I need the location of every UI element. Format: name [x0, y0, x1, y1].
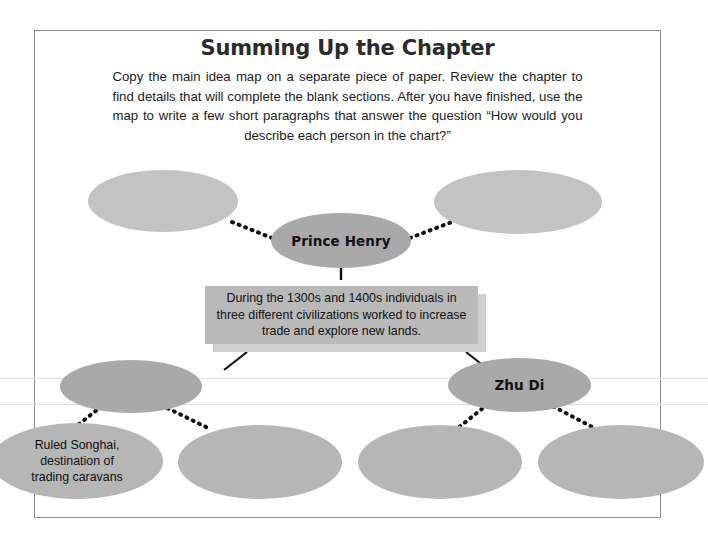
- idea-node-prince-henry[interactable]: Prince Henry: [271, 213, 411, 268]
- idea-node-detail-3[interactable]: [358, 425, 522, 499]
- central-statement-box-fill: During the 1300s and 1400s individuals i…: [205, 286, 478, 344]
- idea-node-top-right[interactable]: [434, 170, 602, 234]
- connector-dotted: [410, 222, 452, 238]
- idea-node-detail-4[interactable]: [538, 425, 704, 499]
- central-statement-box[interactable]: During the 1300s and 1400s individuals i…: [205, 286, 478, 344]
- idea-node-zhu-di[interactable]: Zhu Di: [448, 358, 591, 412]
- central-statement-text: During the 1300s and 1400s individuals i…: [205, 290, 478, 340]
- idea-node-label: Ruled Songhai, destination of trading ca…: [31, 437, 123, 485]
- idea-node-detail-songhai[interactable]: Ruled Songhai, destination of trading ca…: [0, 423, 163, 499]
- connector-solid: [224, 352, 247, 370]
- idea-node-label: Prince Henry: [291, 233, 390, 249]
- idea-node-mid-left[interactable]: [60, 360, 202, 413]
- idea-node-detail-2[interactable]: [178, 425, 342, 499]
- idea-map-diagram: Prince Henry During the 1300s and 1400s …: [0, 0, 708, 535]
- idea-node-top-left[interactable]: [88, 170, 238, 232]
- idea-node-label: Zhu Di: [494, 377, 544, 393]
- connector-dotted: [232, 222, 272, 238]
